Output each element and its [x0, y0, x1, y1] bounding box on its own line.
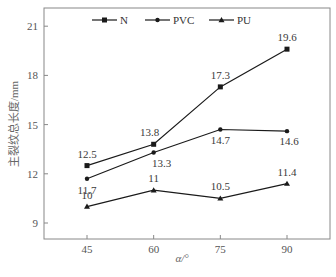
square-marker — [218, 84, 223, 89]
legend-item-pu: PU — [209, 14, 251, 26]
data-label: 14.7 — [211, 134, 231, 146]
y-tick-label: 9 — [33, 217, 39, 229]
series-line — [87, 184, 287, 207]
series-line — [87, 49, 287, 165]
circle-marker — [151, 150, 155, 154]
y-tick-label: 18 — [27, 69, 39, 81]
series-pu: 101110.511.4 — [82, 166, 297, 209]
legend-item-pvc: PVC — [145, 14, 194, 26]
legend-label: N — [120, 14, 128, 26]
data-label: 12.5 — [77, 148, 97, 160]
y-tick-label: 21 — [27, 20, 38, 32]
series-group: 12.513.817.319.611.713.314.714.6101110.5… — [77, 31, 299, 209]
square-marker — [102, 18, 107, 23]
y-tick-label: 12 — [27, 168, 38, 180]
data-label: 13.3 — [152, 157, 172, 169]
y-axis-title: 主裂纹总长度/mm — [7, 80, 20, 167]
legend-label: PVC — [173, 14, 194, 26]
line-chart: 912151821 45607590 12.513.817.319.611.71… — [0, 0, 336, 277]
data-label: 13.8 — [140, 126, 160, 138]
legend-label: PU — [237, 14, 251, 26]
circle-marker — [85, 177, 89, 181]
data-label: 11.4 — [278, 166, 297, 178]
y-tick-label: 15 — [27, 119, 39, 131]
triangle-marker — [284, 181, 290, 186]
data-label: 17.3 — [211, 69, 231, 81]
square-marker — [85, 163, 90, 168]
data-label: 14.6 — [279, 135, 299, 147]
circle-marker — [218, 127, 222, 131]
data-label: 19.6 — [277, 31, 297, 43]
legend: NPVCPU — [92, 14, 251, 26]
square-marker — [285, 47, 290, 52]
x-tick-label: 45 — [82, 243, 94, 255]
data-label: 11 — [148, 172, 159, 184]
square-marker — [151, 142, 156, 147]
data-label: 10.5 — [211, 180, 231, 192]
y-axis: 912151821 — [27, 20, 48, 229]
legend-item-n: N — [92, 14, 128, 26]
data-label: 10 — [82, 189, 94, 201]
circle-marker — [285, 129, 289, 133]
x-tick-label: 90 — [282, 243, 294, 255]
x-tick-label: 75 — [215, 243, 227, 255]
series-line — [87, 130, 287, 179]
series-pvc: 11.713.314.714.6 — [78, 127, 300, 195]
circle-marker — [155, 18, 159, 22]
triangle-marker — [151, 187, 157, 192]
series-n: 12.513.817.319.6 — [77, 31, 297, 168]
x-axis-title: α/° — [175, 252, 189, 264]
x-tick-label: 60 — [148, 243, 160, 255]
